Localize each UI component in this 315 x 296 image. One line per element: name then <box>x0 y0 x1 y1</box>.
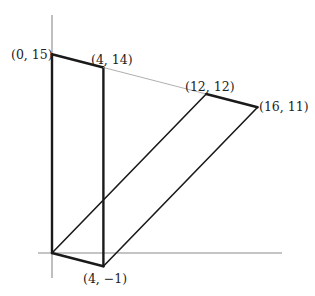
label-12-12: (12, 12) <box>185 79 235 94</box>
edge-top-right <box>206 94 257 107</box>
diagram-canvas: (0, 15)(4, 14)(12, 12)(16, 11)(4, −1) <box>0 0 315 296</box>
label-0-15: (0, 15) <box>11 47 53 62</box>
label-4-m1: (4, −1) <box>83 271 127 286</box>
label-16-11: (16, 11) <box>259 99 309 114</box>
axes <box>38 15 282 278</box>
edge-diagonal-right <box>103 107 257 266</box>
label-4-14: (4, 14) <box>91 52 133 67</box>
edge-diagonal-left <box>52 94 206 253</box>
edge-bottom <box>52 253 103 266</box>
